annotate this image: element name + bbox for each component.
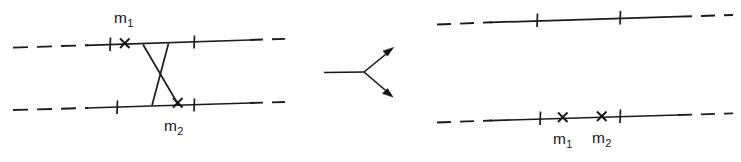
figure-canvas: m1 m2 m1 m2 xyxy=(0,0,741,162)
label-m1-upper-left: m1 xyxy=(114,10,133,29)
label-m2-lower-right-sub: 2 xyxy=(605,137,611,149)
right-lower-track-dashes-trailing xyxy=(678,113,733,115)
right-panel-group xyxy=(437,11,733,125)
exchange-crossing xyxy=(143,44,179,106)
diagram-svg xyxy=(0,0,741,162)
left-lower-tick-2 xyxy=(194,99,195,112)
label-m2-lower-left-base: m xyxy=(164,117,177,134)
label-m2-lower-right-base: m xyxy=(592,129,605,146)
right-upper-tick-2 xyxy=(620,11,621,25)
transition-arrow xyxy=(324,48,394,98)
arrow-branch-upper xyxy=(364,53,388,73)
label-m2-lower-right: m2 xyxy=(592,130,611,149)
right-lower-track xyxy=(437,110,733,126)
left-upper-tick-1 xyxy=(110,38,111,52)
right-lower-tick-1 xyxy=(540,112,541,126)
label-m2-lower-left-sub: 2 xyxy=(177,125,183,137)
label-m1-lower-right: m1 xyxy=(553,131,572,150)
right-lower-cross-m1 xyxy=(558,113,568,123)
right-lower-track-solid xyxy=(490,115,678,121)
label-m2-lower-left: m2 xyxy=(164,118,183,137)
label-m1-lower-right-base: m xyxy=(553,130,566,147)
right-upper-track-dashes-trailing xyxy=(678,15,733,17)
left-lower-tick-1 xyxy=(117,101,118,115)
left-panel-group xyxy=(13,36,292,115)
left-upper-track xyxy=(13,36,292,52)
left-lower-track-dashes-leading xyxy=(13,108,88,110)
exchange-line-down-left xyxy=(152,44,169,106)
label-m1-upper-left-base: m xyxy=(114,9,127,26)
arrow-branch-lower xyxy=(364,72,388,92)
right-lower-cross-m2 xyxy=(597,112,607,122)
label-m1-lower-right-sub: 1 xyxy=(566,138,572,150)
left-upper-track-dashes-trailing xyxy=(250,39,292,40)
label-m1-upper-left-sub: 1 xyxy=(127,17,133,29)
arrow-stem xyxy=(324,72,364,73)
right-upper-track-dashes-leading xyxy=(437,22,492,24)
left-upper-track-dashes-leading xyxy=(13,45,88,47)
right-upper-track-solid xyxy=(490,17,678,23)
left-lower-track-dashes-trailing xyxy=(250,102,292,103)
left-upper-tick-2 xyxy=(194,36,195,49)
right-lower-tick-2 xyxy=(620,110,621,124)
right-lower-track-dashes-leading xyxy=(437,121,492,123)
right-upper-track xyxy=(437,11,733,27)
left-lower-track-solid xyxy=(86,103,250,108)
right-upper-tick-1 xyxy=(537,14,538,28)
